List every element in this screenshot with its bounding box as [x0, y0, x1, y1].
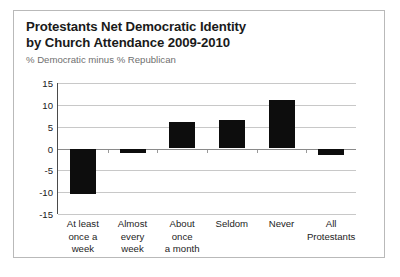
gridline--5 [58, 170, 356, 171]
y-tick-label: -5 [44, 165, 53, 176]
x-category-label: At leastonce aweek [67, 218, 99, 256]
gridline-10 [58, 105, 356, 106]
y-tick-label: 10 [42, 99, 53, 110]
gridline--15 [58, 214, 356, 215]
x-category-label: Never [269, 218, 295, 231]
gridline-5 [58, 127, 356, 128]
plot-wrapper: 151050-5-10-15 At leastonce aweekAlmoste… [14, 11, 386, 259]
chart-figure: Protestants Net Democratic Identity by C… [13, 10, 385, 258]
y-tick-label: 15 [42, 78, 53, 89]
gridline-15 [58, 83, 356, 84]
gridline-0 [58, 149, 356, 150]
x-category-label: Seldom [216, 218, 249, 231]
plot-area: 151050-5-10-15 At leastonce aweekAlmoste… [58, 83, 356, 214]
y-tick-label: -10 [39, 187, 53, 198]
gridline--10 [58, 192, 356, 193]
y-axis-line [57, 83, 58, 214]
y-tick-label: 5 [48, 121, 53, 132]
x-category-label: Almosteveryweek [118, 218, 147, 256]
bar [318, 149, 344, 156]
x-category-label: Aboutoncea month [165, 218, 200, 256]
y-tick-label: -15 [39, 209, 53, 220]
bar [219, 120, 245, 148]
x-category-label: AllProtestants [307, 218, 356, 243]
bar [120, 149, 146, 153]
bar [169, 122, 195, 148]
bar [70, 149, 96, 195]
bar [269, 100, 295, 148]
y-tick-label: 0 [48, 143, 53, 154]
